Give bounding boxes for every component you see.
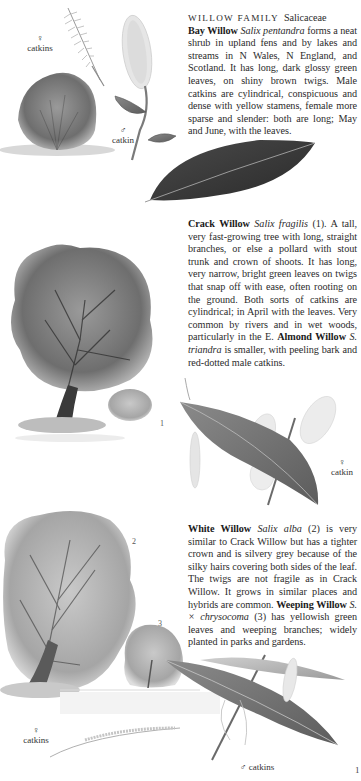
page-number: 1	[355, 765, 360, 775]
bay-male-catkin-label: ♂ catkin	[106, 126, 140, 145]
white-willow-tree-drawing	[0, 511, 136, 698]
bay-willow-description: WILLOW FAMILY SalicaceaeBay Willow Salix…	[188, 12, 357, 138]
species-latin: Salix pentandra	[240, 25, 304, 36]
species-text: is very similar to Crack Willow but has …	[188, 523, 357, 610]
species-name: White Willow	[188, 523, 251, 534]
male-symbol-icon: ♂	[240, 762, 247, 772]
female-symbol-icon: ♀	[20, 34, 60, 43]
female-symbol-icon: ♀	[325, 458, 359, 467]
crack-female-catkin-label: ♀ catkin	[325, 458, 359, 477]
bay-female-catkins-label: ♀ catkins	[20, 34, 60, 53]
figure-number-white: 2	[132, 537, 136, 546]
label-text: catkins	[27, 43, 53, 53]
family-heading: WILLOW FAMILY Salicaceae	[188, 12, 357, 25]
sub-species-name: Weeping Willow	[276, 599, 347, 610]
male-symbol-icon: ♂	[106, 126, 140, 135]
species-name: Crack Willow	[188, 218, 250, 229]
white-female-catkins-label: ♀ catkins	[18, 726, 54, 745]
figure-number-crack: 1	[160, 419, 164, 428]
female-symbol-icon: ♀	[18, 726, 54, 735]
label-text: catkins	[249, 762, 275, 772]
species-latin: Salix fragilis	[254, 218, 308, 229]
species-name: Bay Willow	[188, 25, 238, 36]
family-heading-latin: Salicaceae	[284, 12, 326, 23]
bay-willow-shrub-drawing	[0, 73, 115, 156]
label-text: catkin	[331, 467, 353, 477]
white-willow-female-catkin-drawing	[50, 728, 180, 757]
white-male-catkins-label: ♂ catkins	[232, 762, 282, 772]
label-text: catkins	[23, 735, 49, 745]
bay-willow-leaf-drawing	[145, 140, 315, 202]
species-text: . A tall, very fast-growing tree with lo…	[188, 218, 357, 342]
crack-willow-description: Crack Willow Salix fragilis (1). A tall,…	[188, 218, 357, 369]
label-text: catkin	[112, 135, 134, 145]
sub-species-name: Almond Willow	[277, 331, 346, 342]
white-willow-description: White Willow Salix alba (2) is very simi…	[188, 523, 357, 649]
sub-species-ref: (3)	[249, 611, 266, 622]
family-heading-caps: WILLOW FAMILY	[188, 13, 279, 23]
crack-willow-tree-drawing	[11, 244, 153, 442]
figure-ref: (2)	[302, 523, 320, 534]
crack-willow-twig-drawing	[180, 378, 343, 505]
figure-number-weeping: 3	[158, 619, 162, 628]
field-guide-page: WILLOW FAMILY SalicaceaeBay Willow Salix…	[0, 0, 361, 781]
figure-ref: (1)	[308, 218, 324, 229]
species-latin: Salix alba	[257, 523, 301, 534]
species-text: forms a neat shrub in upland fens and by…	[188, 25, 357, 137]
